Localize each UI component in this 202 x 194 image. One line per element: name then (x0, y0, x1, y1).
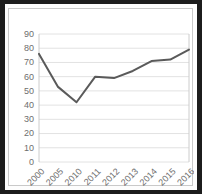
screenshot-page: 0102030405060708090 20002005201020112012… (0, 0, 202, 194)
y-axis-tick-label: 0 (29, 157, 34, 167)
y-axis-tick-label: 70 (24, 57, 34, 67)
x-axis-tick-labels: 200020052010201120122013201420152016 (25, 166, 194, 187)
y-axis-tick-label: 60 (24, 72, 34, 82)
x-axis-tick-label: 2016 (175, 166, 194, 187)
x-axis-tick-label: 2005 (44, 166, 65, 187)
y-axis-tick-labels: 0102030405060708090 (24, 29, 34, 167)
data-series-group (39, 50, 189, 103)
chart-container: 0102030405060708090 20002005201020112012… (8, 8, 193, 186)
x-axis-tick-label: 2010 (63, 166, 84, 187)
y-axis-tick-label: 90 (24, 29, 34, 39)
x-axis-tick-label: 2000 (25, 166, 46, 187)
y-axis-tick-label: 10 (24, 143, 34, 153)
data-line[interactable] (39, 50, 189, 103)
y-axis-tick-label: 80 (24, 43, 34, 53)
x-axis-tick-label: 2011 (82, 166, 103, 187)
x-axis-tick-label: 2013 (119, 166, 140, 187)
gridlines (39, 34, 189, 162)
y-axis-tick-label: 20 (24, 128, 34, 138)
document-page: 0102030405060708090 20002005201020112012… (5, 4, 197, 190)
y-axis-tick-label: 30 (24, 114, 34, 124)
x-axis-tick-label: 2014 (138, 166, 159, 187)
line-chart[interactable]: 0102030405060708090 20002005201020112012… (9, 9, 194, 187)
y-axis-tick-label: 40 (24, 100, 34, 110)
x-axis-tick-label: 2015 (156, 166, 177, 187)
x-axis-tick-label: 2012 (100, 166, 121, 187)
y-axis-tick-label: 50 (24, 86, 34, 96)
